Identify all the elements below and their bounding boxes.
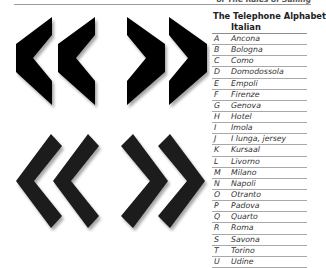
row-word: Domodossola (231, 67, 307, 77)
row-letter: F (212, 90, 231, 100)
table-row: FFirenze (212, 90, 307, 101)
row-word: Savona (231, 235, 307, 245)
row-word: Genova (231, 101, 307, 111)
table-row: GGenova (212, 101, 307, 112)
row-word: Hotel (231, 112, 307, 122)
table-row: LLivorno (212, 157, 307, 168)
table-row: OOtranto (212, 190, 307, 201)
row-word: Empoli (231, 79, 307, 89)
row-word: I lunga, jersey (231, 134, 307, 144)
table-row: SSavona (212, 235, 307, 246)
row-word: Quarto (231, 212, 307, 222)
row-letter: M (212, 168, 231, 178)
table-row: RRoma (212, 223, 307, 234)
row-word: Milano (231, 168, 307, 178)
row-letter: L (212, 157, 231, 167)
table-row: DDomodossola (212, 67, 307, 78)
row-word: Firenze (231, 90, 307, 100)
row-word: Napoli (231, 179, 307, 189)
row-letter: R (212, 223, 231, 233)
row-letter: B (212, 45, 231, 55)
row-letter: J (212, 134, 231, 144)
row-letter: K (212, 145, 231, 155)
row-letter: I (212, 123, 231, 133)
table-body: AAncona BBologna CComo DDomodossola EEmp… (212, 33, 307, 268)
row-letter: E (212, 79, 231, 89)
row-word: Ancona (231, 34, 307, 44)
chevron-figure (0, 0, 210, 250)
table-subtitle: Italian (231, 22, 307, 33)
table-row: TTorino (212, 246, 307, 257)
table-row: QQuarto (212, 212, 307, 223)
table-row: BBologna (212, 45, 307, 56)
row-word: Kursaal (231, 145, 307, 155)
row-word: Udine (231, 257, 307, 267)
row-letter: D (212, 67, 231, 77)
row-letter: O (212, 190, 231, 200)
row-word: Bologna (231, 45, 307, 55)
row-letter: G (212, 101, 231, 111)
table-row: IImola (212, 123, 307, 134)
table-row: NNapoli (212, 179, 307, 190)
block-chevron-right-icon (169, 17, 207, 105)
table-row: CComo (212, 56, 307, 67)
telephone-alphabet-table: The Telephone Alphabet Italian AAncona B… (212, 11, 307, 268)
row-word: Otranto (231, 190, 307, 200)
running-head: of The Rules of Sailing (216, 0, 311, 4)
row-letter: N (212, 179, 231, 189)
table-row: PPadova (212, 201, 307, 212)
table-title: The Telephone Alphabet (213, 11, 307, 22)
row-letter: S (212, 235, 231, 245)
row-word: Como (231, 56, 307, 66)
table-row: MMilano (212, 168, 307, 179)
block-chevron-left-icon (58, 17, 95, 105)
block-chevron-left-icon (16, 17, 52, 105)
row-word: Roma (231, 223, 307, 233)
table-row: UUdine (212, 257, 307, 268)
row-letter: H (212, 112, 231, 122)
table-row: EEmpoli (212, 79, 307, 90)
table-row: KKursaal (212, 145, 307, 156)
row-letter: Q (212, 212, 231, 222)
row-letter: A (212, 34, 231, 44)
table-row: HHotel (212, 112, 307, 123)
row-word: Torino (231, 246, 307, 256)
table-row: AAncona (212, 34, 307, 45)
row-word: Livorno (231, 157, 307, 167)
row-letter: T (212, 246, 231, 256)
table-row: JI lunga, jersey (212, 134, 307, 145)
row-word: Imola (231, 123, 307, 133)
block-chevron-right-icon (127, 17, 165, 105)
row-letter: C (212, 56, 231, 66)
row-word: Padova (231, 201, 307, 211)
row-letter: U (212, 257, 231, 267)
row-letter: P (212, 201, 231, 211)
